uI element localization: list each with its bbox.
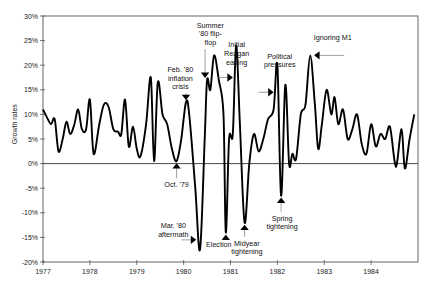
annotation-summer80-arrow-icon [201, 73, 209, 78]
y-axis-title-text: Growth rates [11, 104, 18, 145]
annotation-midyear-arrow-icon [240, 225, 248, 230]
y-tick-label: 5% [28, 136, 38, 143]
annotation-midyear-text: tightening [231, 247, 262, 256]
x-tick-label: 1984 [363, 268, 379, 275]
line-chart-svg: 30%25%20%15%10%5%0%-5%-10%-15%-20%197719… [0, 0, 434, 290]
annotation-reagan-arrow-icon [227, 73, 232, 81]
x-tick-label: 1983 [316, 268, 332, 275]
x-tick-label: 1980 [176, 268, 192, 275]
x-tick-label: 1981 [223, 268, 239, 275]
annotation-political-text: pressures [264, 60, 296, 69]
chart: 30%25%20%15%10%5%0%-5%-10%-15%-20%197719… [0, 0, 434, 290]
y-tick-label: -15% [22, 234, 38, 241]
x-tick-label: 1982 [270, 268, 286, 275]
y-tick-label: 30% [24, 13, 38, 20]
annotation-spring-text: tightening [266, 222, 297, 231]
annotation-feb80-arrow-icon [182, 95, 190, 100]
annotation-spring-arrow-icon [277, 198, 285, 203]
y-tick-label: 25% [24, 37, 38, 44]
y-tick-label: -20% [22, 259, 38, 266]
annotation-mar80-text: aftermath [158, 230, 188, 239]
axes: 30%25%20%15%10%5%0%-5%-10%-15%-20%197719… [22, 13, 418, 276]
y-tick-label: -10% [22, 209, 38, 216]
annotation-oct79-text: Oct. '79 [164, 180, 189, 189]
x-tick-label: 1977 [35, 268, 51, 275]
x-tick-label: 1979 [129, 268, 145, 275]
x-tick-label: 1978 [82, 268, 98, 275]
y-tick-label: 0% [28, 160, 38, 167]
annotation-m1-arrow-icon [314, 51, 319, 59]
y-tick-label: 15% [24, 86, 38, 93]
y-tick-label: -5% [26, 185, 38, 192]
annotation-m1-text: Ignoring M1 [314, 33, 352, 42]
y-axis-title: Growth rates [11, 104, 18, 145]
annotation-mar80-arrow-icon [191, 236, 196, 244]
y-tick-label: 10% [24, 111, 38, 118]
annotation-summer80-text: flop [205, 38, 217, 47]
annotation-election-text: Election [206, 240, 232, 249]
annotation-election-arrow-icon [222, 234, 230, 239]
annotation-political-arrow-icon [268, 88, 273, 96]
annotation-reagan-text: easing [226, 58, 247, 67]
y-tick-label: 20% [24, 62, 38, 69]
annotation-feb80-text: crisis [172, 82, 189, 91]
